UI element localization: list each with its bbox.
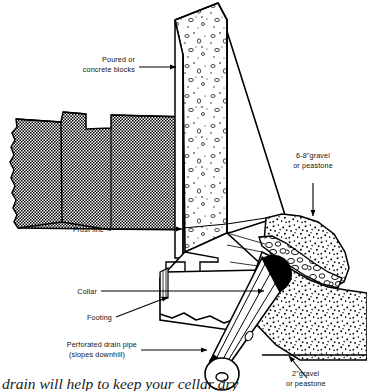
lower-gravel-label-line2: or peastone [286, 379, 326, 388]
wall-left-edge [175, 20, 183, 258]
collar-label: Collar [77, 287, 97, 296]
soil-mass [10, 112, 189, 230]
wall-label-line1: Poured or [102, 55, 135, 64]
footing-label: Footing [87, 313, 112, 322]
wall-label-line2: concrete blocks [83, 65, 135, 74]
wall-side-face [218, 3, 285, 233]
upper-gravel-label-line2: or peastone [293, 161, 333, 170]
lower-gravel-label-line1: 2"gravel [292, 369, 320, 378]
foundation-drain-diagram: Poured or concrete blocks Frost line Col… [0, 0, 367, 391]
soil-backfill-region [10, 112, 189, 230]
drain-pipe-label-line1: Perforated drain pipe [67, 340, 137, 349]
frost-line-label: Frost line [73, 225, 104, 234]
upper-gravel-label-line1: 6-8"gravel [296, 151, 330, 160]
drain-pipe-label-line2: (slopes downhill) [69, 350, 125, 359]
soil-fold-line-left [61, 122, 62, 222]
footing-cut-edge-hatch [160, 268, 168, 300]
diagram-canvas: Poured or concrete blocks Frost line Col… [0, 0, 367, 391]
figure-caption: drain will help to keep your cellar dry [2, 375, 238, 391]
